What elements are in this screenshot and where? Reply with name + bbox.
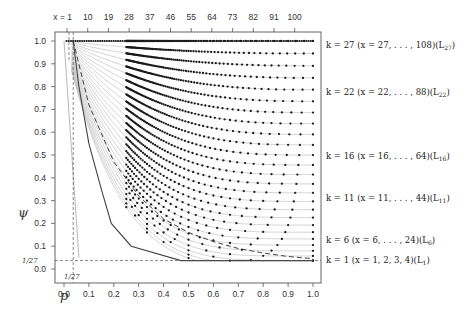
data-point bbox=[238, 40, 240, 42]
data-point bbox=[222, 63, 224, 65]
data-point bbox=[68, 40, 70, 42]
data-point bbox=[269, 40, 271, 42]
data-point bbox=[138, 214, 140, 216]
data-point bbox=[125, 129, 127, 131]
data-point bbox=[222, 40, 224, 42]
data-point bbox=[187, 151, 189, 153]
data-point bbox=[132, 197, 134, 199]
data-point bbox=[199, 72, 201, 74]
data-point bbox=[182, 89, 184, 91]
data-point bbox=[148, 173, 150, 175]
data-point bbox=[272, 111, 274, 113]
data-point bbox=[212, 167, 214, 169]
data-point bbox=[187, 80, 189, 82]
data-point bbox=[180, 138, 182, 140]
data-point bbox=[165, 123, 167, 125]
data-point bbox=[267, 224, 269, 226]
data-point bbox=[142, 40, 144, 42]
data-point bbox=[184, 100, 186, 102]
data-point bbox=[208, 175, 210, 177]
data-point bbox=[162, 231, 164, 233]
data-point bbox=[181, 129, 183, 131]
top-tick-label: 64 bbox=[207, 12, 217, 22]
k-curve bbox=[72, 50, 314, 145]
data-point bbox=[165, 159, 167, 161]
data-point bbox=[149, 188, 151, 190]
data-point bbox=[196, 153, 198, 155]
data-point bbox=[240, 98, 242, 100]
data-point bbox=[157, 154, 159, 156]
data-point bbox=[312, 224, 314, 226]
data-point bbox=[181, 109, 183, 111]
data-point bbox=[146, 223, 148, 225]
data-point bbox=[264, 111, 266, 113]
data-point bbox=[152, 217, 154, 219]
data-point bbox=[270, 216, 272, 218]
data-point bbox=[211, 127, 213, 129]
data-point bbox=[162, 40, 164, 42]
data-point bbox=[293, 65, 295, 67]
data-point bbox=[258, 99, 260, 101]
data-point bbox=[193, 198, 195, 200]
data-point bbox=[193, 71, 195, 73]
data-point bbox=[190, 81, 192, 83]
data-point bbox=[201, 243, 203, 245]
data-point bbox=[125, 170, 127, 172]
data-point bbox=[312, 192, 314, 194]
data-point bbox=[207, 94, 209, 96]
data-point bbox=[237, 236, 239, 238]
data-point bbox=[187, 169, 189, 171]
data-point bbox=[165, 200, 167, 202]
data-point bbox=[199, 144, 201, 146]
data-point bbox=[191, 132, 193, 134]
data-point bbox=[212, 256, 214, 258]
data-point bbox=[134, 181, 136, 183]
data-point bbox=[233, 52, 235, 54]
data-point bbox=[213, 51, 215, 53]
data-point bbox=[125, 115, 127, 117]
data-point bbox=[70, 40, 72, 42]
x-tick-label: 0.4 bbox=[158, 289, 170, 299]
data-point bbox=[83, 40, 85, 42]
data-point bbox=[115, 40, 117, 42]
data-point bbox=[174, 97, 176, 99]
data-point bbox=[220, 74, 222, 76]
data-point bbox=[150, 203, 152, 205]
data-point bbox=[278, 40, 280, 42]
y-tick-label: 0.7 bbox=[34, 104, 46, 114]
data-point bbox=[164, 150, 166, 152]
data-point bbox=[229, 197, 231, 199]
data-point bbox=[217, 138, 219, 140]
data-point bbox=[168, 209, 170, 211]
data-point bbox=[312, 133, 314, 135]
data-point bbox=[239, 198, 241, 200]
data-point bbox=[146, 231, 148, 233]
data-point bbox=[284, 164, 286, 166]
data-point bbox=[128, 40, 130, 42]
y-tick-label: 0.8 bbox=[34, 82, 46, 92]
data-point bbox=[171, 144, 173, 146]
data-point bbox=[301, 100, 303, 102]
top-tick-label: 73 bbox=[228, 12, 238, 22]
data-point bbox=[198, 124, 200, 126]
data-point bbox=[174, 238, 176, 240]
data-point bbox=[201, 61, 203, 63]
data-point bbox=[238, 131, 240, 133]
x-axis-title: p bbox=[60, 288, 69, 303]
data-point bbox=[187, 257, 189, 259]
data-point bbox=[130, 40, 132, 42]
data-point bbox=[274, 154, 276, 156]
data-point bbox=[294, 52, 296, 54]
data-point bbox=[292, 40, 294, 42]
data-point bbox=[215, 95, 217, 97]
data-point bbox=[177, 40, 179, 42]
data-point bbox=[193, 40, 195, 42]
data-point bbox=[212, 194, 214, 196]
data-point bbox=[195, 214, 197, 216]
data-point bbox=[187, 91, 189, 93]
data-point bbox=[165, 215, 167, 217]
data-point bbox=[214, 84, 216, 86]
data-point bbox=[128, 186, 130, 188]
data-point bbox=[251, 40, 253, 42]
data-point bbox=[170, 116, 172, 118]
